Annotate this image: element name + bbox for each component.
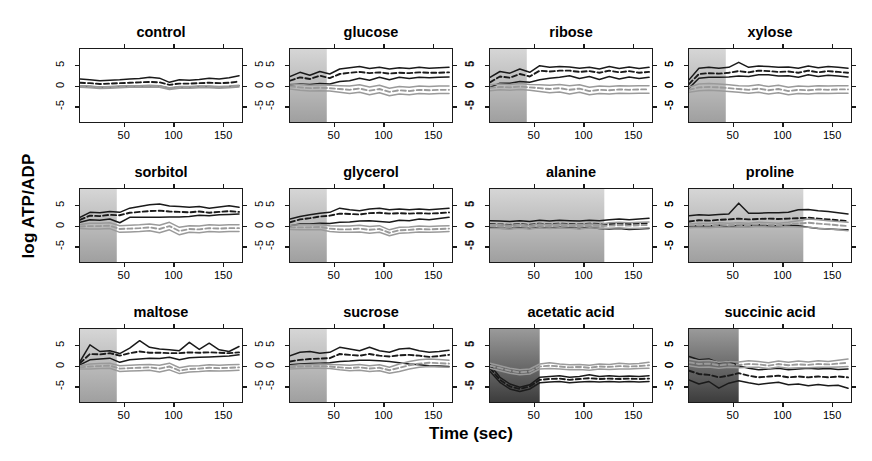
y-tick-label: -5 <box>264 377 276 393</box>
x-tick <box>223 263 224 267</box>
x-tick-top <box>782 324 783 328</box>
x-tick-label: 50 <box>514 129 554 141</box>
panel-sorbitol: sorbitol5010015050-5 <box>39 164 283 299</box>
y-tick <box>684 86 688 87</box>
x-tick <box>534 123 535 127</box>
x-tick <box>733 263 734 267</box>
x-tick-label: 100 <box>363 409 403 421</box>
x-tick-label: 100 <box>563 269 603 281</box>
x-tick <box>433 123 434 127</box>
y-tick-label: 5 <box>264 336 276 352</box>
x-tick-top <box>173 44 174 48</box>
x-tick-top <box>124 184 125 188</box>
y-tick-label-mirror: -5 <box>463 237 475 253</box>
y-tick-label-mirror: 0 <box>463 77 475 93</box>
x-tick <box>334 123 335 127</box>
y-tick <box>285 345 289 346</box>
x-tick <box>832 263 833 267</box>
y-tick-label: 0 <box>264 357 276 373</box>
y-tick-label: 0 <box>54 77 66 93</box>
y-tick-label-mirror: -5 <box>253 97 265 113</box>
y-tick-right <box>243 86 247 87</box>
series-dark_mid <box>80 82 239 85</box>
x-tick-label: 100 <box>363 129 403 141</box>
x-tick-label: 100 <box>563 409 603 421</box>
series-light_lower <box>490 228 649 229</box>
plot-area <box>289 328 453 403</box>
plot-area <box>688 328 852 403</box>
x-tick <box>223 123 224 127</box>
y-tick <box>485 106 489 107</box>
y-tick <box>75 226 79 227</box>
y-tick-label-mirror: 5 <box>253 56 265 72</box>
y-tick-label-mirror: -5 <box>463 377 475 393</box>
y-tick-right <box>243 246 247 247</box>
x-tick-label: 50 <box>514 409 554 421</box>
x-tick-top <box>223 184 224 188</box>
y-tick-label-mirror: 0 <box>463 217 475 233</box>
x-tick-top <box>782 184 783 188</box>
x-tick <box>124 123 125 127</box>
x-tick-label: 150 <box>812 409 852 421</box>
panel-title: control <box>39 24 283 40</box>
x-tick-label: 150 <box>413 129 453 141</box>
x-tick-top <box>733 324 734 328</box>
y-tick <box>285 106 289 107</box>
x-tick-top <box>223 324 224 328</box>
y-tick <box>75 106 79 107</box>
y-tick <box>75 366 79 367</box>
y-tick-right <box>852 345 856 346</box>
y-tick-label: 5 <box>54 196 66 212</box>
y-tick <box>75 246 79 247</box>
plot-area <box>688 188 852 263</box>
y-tick <box>75 205 79 206</box>
x-tick <box>733 123 734 127</box>
x-tick-top <box>383 324 384 328</box>
x-tick-top <box>633 184 634 188</box>
y-tick-label: 0 <box>54 357 66 373</box>
y-tick-label-mirror: -5 <box>663 377 675 393</box>
y-tick-right <box>243 226 247 227</box>
plot-area <box>688 48 852 123</box>
x-tick <box>832 123 833 127</box>
x-tick-label: 150 <box>203 129 243 141</box>
x-tick <box>173 403 174 407</box>
y-tick-label: 5 <box>54 56 66 72</box>
x-tick <box>383 123 384 127</box>
y-tick-right <box>852 86 856 87</box>
x-tick <box>633 403 634 407</box>
y-tick-right <box>852 205 856 206</box>
x-tick-label: 100 <box>762 269 802 281</box>
x-tick <box>124 263 125 267</box>
x-tick-top <box>383 44 384 48</box>
x-tick <box>633 123 634 127</box>
x-tick-label: 100 <box>563 129 603 141</box>
y-tick <box>485 345 489 346</box>
x-tick-top <box>633 44 634 48</box>
x-tick-label: 100 <box>153 269 193 281</box>
x-tick-label: 150 <box>203 269 243 281</box>
x-tick-top <box>383 184 384 188</box>
panel-title: xylose <box>648 24 872 40</box>
x-tick-label: 50 <box>104 129 144 141</box>
x-tick-label: 50 <box>514 269 554 281</box>
shaded-treatment-region <box>490 329 540 403</box>
x-tick-top <box>433 184 434 188</box>
shaded-treatment-region <box>290 49 327 123</box>
x-tick <box>633 263 634 267</box>
x-tick-top <box>433 44 434 48</box>
x-tick-top <box>223 44 224 48</box>
x-tick-label: 50 <box>713 129 753 141</box>
y-tick-label: -5 <box>54 237 66 253</box>
x-tick-label: 100 <box>153 129 193 141</box>
y-tick <box>684 386 688 387</box>
y-tick-label-mirror: 5 <box>253 196 265 212</box>
y-tick-right <box>852 386 856 387</box>
y-tick <box>684 106 688 107</box>
x-tick-top <box>534 184 535 188</box>
x-tick <box>433 263 434 267</box>
x-tick-top <box>534 324 535 328</box>
y-tick <box>485 86 489 87</box>
plot-area <box>79 188 243 263</box>
x-tick-label: 150 <box>203 409 243 421</box>
